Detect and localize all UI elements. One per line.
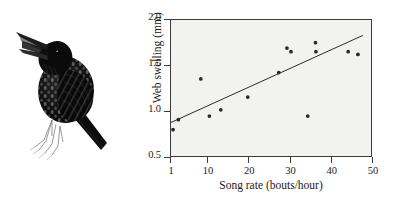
data-point [171, 128, 175, 132]
data-point [207, 114, 211, 118]
data-point [356, 53, 360, 57]
y-tick-2.0: 2.0 [164, 19, 170, 20]
bird-eye [55, 49, 60, 54]
data-point [277, 71, 281, 75]
x-axis-title: Song rate (bouts/hour) [170, 180, 372, 192]
x-tick-label: 40 [326, 166, 337, 177]
x-tick-10: 10 [207, 157, 208, 163]
data-point [199, 77, 203, 81]
data-point [306, 114, 310, 118]
x-tick-label: 20 [244, 166, 255, 177]
data-point [176, 118, 180, 122]
data-point [314, 50, 318, 54]
x-tick-40: 40 [331, 157, 332, 163]
data-point [285, 46, 289, 50]
data-point [289, 50, 293, 54]
y-axis-title: Web swelling (mm) [152, 0, 164, 118]
data-points [171, 41, 360, 132]
x-tick-20: 20 [248, 157, 249, 163]
scatter-chart: 2.0 1.5 1.0 0.5 1 10 20 30 40 50 Song ra [126, 0, 396, 206]
figure-song-rate-vs-web-swelling: 2.0 1.5 1.0 0.5 1 10 20 30 40 50 Song ra [0, 0, 396, 206]
x-tick-label: 10 [203, 166, 214, 177]
data-point [219, 108, 223, 112]
x-tick-30: 30 [290, 157, 291, 163]
bird-illustration-panel [0, 0, 130, 206]
data-point [346, 50, 350, 54]
european-starling-singing-illustration [8, 14, 126, 174]
y-tick-label: 0.5 [148, 150, 161, 161]
x-tick-label: 50 [368, 166, 379, 177]
data-point [246, 95, 250, 99]
plot-canvas [171, 20, 371, 156]
x-tick-50: 50 [372, 157, 373, 163]
x-tick-1: 1 [170, 157, 171, 163]
data-point [314, 41, 318, 45]
plot-area [170, 19, 372, 157]
x-tick-label: 30 [285, 166, 296, 177]
y-tick-1.5: 1.5 [164, 65, 170, 66]
x-tick-label: 1 [168, 166, 173, 177]
y-tick-1.0: 1.0 [164, 111, 170, 112]
bird-legs [35, 120, 63, 155]
